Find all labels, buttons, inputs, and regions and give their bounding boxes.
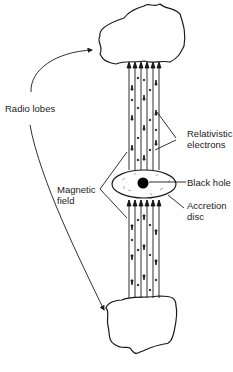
accretion-disc-leader <box>168 195 184 208</box>
magnetic-field-line2: field <box>57 195 96 206</box>
upper-jet <box>127 62 161 170</box>
accretion-disc-label: Accretion disc <box>187 200 227 222</box>
relativistic-leader-upper <box>157 112 176 138</box>
accretion-disc-line2: disc <box>187 211 227 222</box>
relativistic-electrons-line2: electrons <box>187 139 232 150</box>
magnetic-field-line1: Magnetic <box>57 184 96 195</box>
upper-radio-lobe <box>99 4 185 64</box>
relativistic-electrons-label: Relativistic electrons <box>187 128 232 150</box>
lower-radio-lobe <box>106 296 177 353</box>
radio-lobes-arrow-up <box>31 50 92 92</box>
radio-lobes-arrow-down <box>30 125 104 310</box>
magnetic-field-label: Magnetic field <box>57 184 96 206</box>
accretion-disc-line1: Accretion <box>187 200 227 211</box>
relativistic-leader-lower <box>155 140 176 150</box>
radio-lobes-label: Radio lobes <box>5 103 55 114</box>
black-hole <box>138 178 149 189</box>
black-hole-label: Black hole <box>187 177 231 188</box>
relativistic-electrons-line1: Relativistic <box>187 128 232 139</box>
lower-jet <box>127 200 161 298</box>
